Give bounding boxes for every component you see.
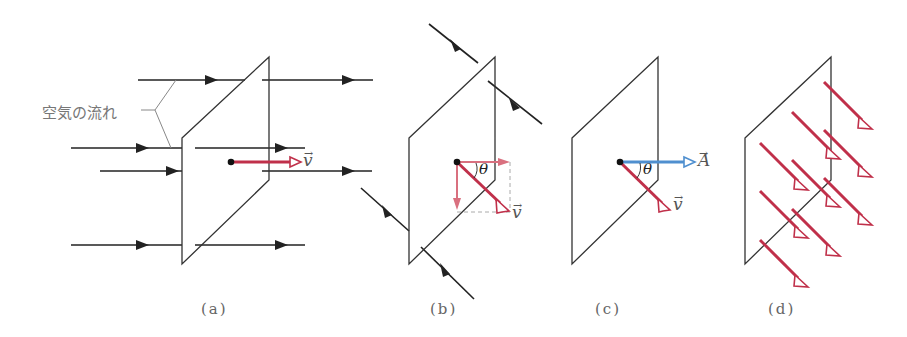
panel-d <box>745 57 872 287</box>
vector-arrow-glyph: → <box>699 147 708 160</box>
vector-arrow-glyph: → <box>304 147 313 160</box>
caption-a: (a) <box>201 300 228 318</box>
panel-c <box>572 57 695 264</box>
vector-arrow-glyph: → <box>513 199 522 212</box>
caption-b: (b) <box>430 300 457 318</box>
area-vector-label: →A <box>698 150 710 170</box>
caption-c: (c) <box>595 300 621 318</box>
theta-label-b: θ <box>479 160 488 178</box>
velocity-label-c: →v <box>673 194 683 214</box>
velocity-label-a: →v <box>303 150 313 170</box>
air-flow-label: 空気の流れ <box>42 101 117 122</box>
diagram-canvas <box>0 0 907 337</box>
caption-d: (d) <box>768 300 795 318</box>
panel-a <box>71 57 373 264</box>
velocity-label-b: →v <box>512 202 522 222</box>
theta-label-c: θ <box>643 160 652 178</box>
vector-arrow-glyph: → <box>674 191 683 204</box>
panel-b <box>361 24 542 299</box>
